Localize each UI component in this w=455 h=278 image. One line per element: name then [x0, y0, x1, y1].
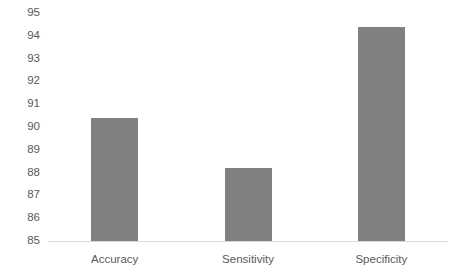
y-axis-tick-label: 92: [0, 76, 40, 88]
y-axis: 9594939291908988878685: [0, 0, 40, 278]
bar-chart: 9594939291908988878685 AccuracySensitivi…: [0, 0, 455, 278]
y-axis-tick-label: 94: [0, 30, 40, 42]
bar: [225, 168, 272, 241]
y-axis-tick-label: 93: [0, 53, 40, 65]
x-axis-tick-label: Specificity: [355, 254, 407, 266]
y-axis-tick-label: 85: [0, 235, 40, 247]
bar: [91, 118, 138, 241]
y-axis-tick-label: 86: [0, 212, 40, 224]
y-axis-tick-label: 91: [0, 98, 40, 110]
bar: [358, 27, 405, 241]
y-axis-tick-label: 87: [0, 190, 40, 202]
y-axis-tick-label: 89: [0, 144, 40, 156]
y-axis-tick-label: 95: [0, 7, 40, 19]
x-axis-tick-label: Accuracy: [91, 254, 138, 266]
x-axis: AccuracySensitivitySpecificity: [48, 254, 448, 274]
x-axis-line: [48, 241, 448, 242]
y-axis-tick-label: 88: [0, 167, 40, 179]
x-axis-tick-label: Sensitivity: [222, 254, 274, 266]
y-axis-tick-label: 90: [0, 121, 40, 133]
plot-area: [48, 0, 448, 278]
